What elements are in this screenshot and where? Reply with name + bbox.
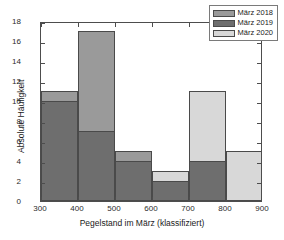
- legend-swatch-icon: [213, 30, 235, 37]
- y-tick-mark: [257, 183, 261, 184]
- legend-item-2018[interactable]: März 2018: [213, 9, 273, 17]
- x-tick-label: 700: [181, 205, 194, 213]
- y-tick-mark: [257, 83, 261, 84]
- x-tick-label: 800: [218, 205, 231, 213]
- y-tick-mark: [41, 43, 45, 44]
- x-tick-mark: [115, 23, 116, 27]
- x-tick-label: 900: [255, 205, 268, 213]
- x-axis-title: Pegelstand im März (klassifiziert): [0, 219, 284, 228]
- y-tick-mark: [41, 143, 45, 144]
- y-tick-mark: [257, 103, 261, 104]
- y-axis-title: Absolute Häufigkeit: [17, 46, 26, 186]
- legend-label: März 2019: [238, 19, 273, 27]
- x-tick-label: 400: [70, 205, 83, 213]
- legend-item-2019[interactable]: März 2019: [213, 19, 273, 27]
- y-tick-mark: [257, 123, 261, 124]
- legend-swatch-icon: [213, 10, 235, 17]
- y-tick-mark: [41, 83, 45, 84]
- legend-label: März 2020: [238, 29, 273, 37]
- y-tick-mark: [41, 163, 45, 164]
- x-tick-label: 500: [107, 205, 120, 213]
- legend-label: März 2018: [238, 9, 273, 17]
- x-tick-mark: [78, 23, 79, 27]
- x-tick-mark: [78, 197, 79, 201]
- y-tick-label: 18: [12, 18, 21, 26]
- y-tick-mark: [257, 63, 261, 64]
- y-tick-label: 0: [17, 198, 21, 206]
- tick-layer: [41, 23, 261, 201]
- x-tick-mark: [226, 197, 227, 201]
- x-tick-mark: [115, 197, 116, 201]
- legend-item-2020[interactable]: März 2020: [213, 29, 273, 37]
- x-tick-mark: [41, 23, 42, 27]
- y-tick-label: 16: [12, 38, 21, 46]
- y-tick-mark: [41, 123, 45, 124]
- y-tick-mark: [257, 143, 261, 144]
- y-tick-mark: [41, 183, 45, 184]
- y-tick-mark: [41, 103, 45, 104]
- legend-swatch-icon: [213, 20, 235, 27]
- plot-area: [40, 22, 262, 202]
- x-tick-mark: [152, 23, 153, 27]
- x-tick-label: 300: [33, 205, 46, 213]
- y-tick-mark: [41, 63, 45, 64]
- y-tick-mark: [257, 43, 261, 44]
- x-tick-label: 600: [144, 205, 157, 213]
- y-tick-mark: [257, 163, 261, 164]
- x-tick-mark: [189, 23, 190, 27]
- legend: März 2018 März 2019 März 2020: [209, 5, 278, 41]
- x-tick-mark: [189, 197, 190, 201]
- histogram-figure: 024681012141618300400500600700800900 Abs…: [0, 0, 284, 240]
- x-tick-mark: [41, 197, 42, 201]
- x-tick-mark: [152, 197, 153, 201]
